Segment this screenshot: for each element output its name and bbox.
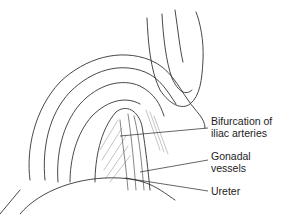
label-line: Ureter bbox=[211, 185, 240, 197]
label-ureter: Ureter bbox=[211, 185, 240, 197]
label-gonadal-vessels: Gonadal vessels bbox=[211, 150, 251, 174]
label-line: iliac arteries bbox=[211, 127, 272, 139]
label-line: Bifurcation of bbox=[211, 115, 272, 127]
label-line: vessels bbox=[211, 162, 251, 174]
anatomical-illustration bbox=[0, 0, 290, 214]
label-bifurcation-iliac-arteries: Bifurcation of iliac arteries bbox=[211, 115, 272, 139]
label-line: Gonadal bbox=[211, 150, 251, 162]
